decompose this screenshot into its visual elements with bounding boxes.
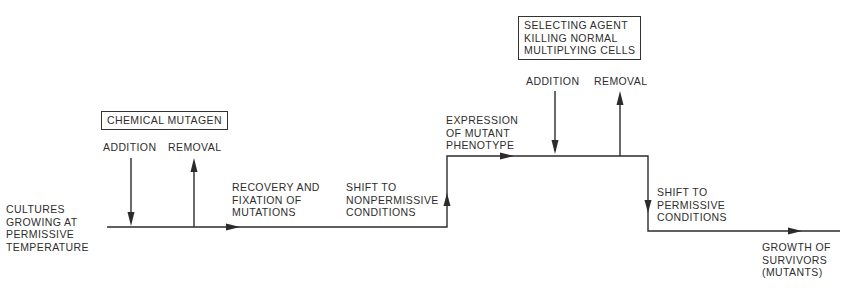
stage-expression-label: EXPRESSION OF MUTANT PHENOTYPE: [446, 114, 518, 152]
stage-shift-nonpermissive-label: SHIFT TO NONPERMISSIVE CONDITIONS: [346, 181, 439, 219]
mutagen-addition-label: ADDITION: [103, 141, 156, 154]
label-line: OF MUTANT: [446, 127, 518, 140]
label-line: CONDITIONS: [657, 211, 727, 224]
label-line: KILLING NORMAL: [524, 32, 635, 45]
label-line: GROWTH OF: [762, 241, 831, 254]
label-line: (MUTANTS): [762, 266, 831, 279]
label-line: EXPRESSION: [446, 114, 518, 127]
chemical-mutagen-box: CHEMICAL MUTAGEN: [101, 111, 228, 130]
selecting-removal-label: REMOVAL: [594, 75, 647, 88]
label-line: MUTATIONS: [232, 206, 320, 219]
label-line: CULTURES: [6, 203, 89, 216]
label-line: SELECTING AGENT: [524, 19, 635, 32]
mutagen-removal-label: REMOVAL: [168, 141, 221, 154]
stage-shift-permissive-label: SHIFT TO PERMISSIVE CONDITIONS: [657, 186, 727, 224]
label-line: FIXATION OF: [232, 194, 320, 207]
stage-start-label: CULTURES GROWING AT PERMISSIVE TEMPERATU…: [6, 203, 89, 253]
stage-recovery-label: RECOVERY AND FIXATION OF MUTATIONS: [232, 181, 320, 219]
label-line: MULTIPLYING CELLS: [524, 44, 635, 57]
label-line: GROWING AT: [6, 216, 89, 229]
label-line: CONDITIONS: [346, 206, 439, 219]
label-line: PERMISSIVE: [6, 228, 89, 241]
label-line: SHIFT TO: [346, 181, 439, 194]
stage-growth-label: GROWTH OF SURVIVORS (MUTANTS): [762, 241, 831, 279]
label-line: SHIFT TO: [657, 186, 727, 199]
label-line: PERMISSIVE: [657, 199, 727, 212]
label-line: RECOVERY AND: [232, 181, 320, 194]
baseline-path: [107, 156, 840, 231]
label-line: PHENOTYPE: [446, 139, 518, 152]
selecting-agent-box: SELECTING AGENT KILLING NORMAL MULTIPLYI…: [518, 16, 641, 60]
selecting-addition-label: ADDITION: [526, 75, 579, 88]
label-line: SURVIVORS: [762, 254, 831, 267]
label-line: NONPERMISSIVE: [346, 194, 439, 207]
label-line: TEMPERATURE: [6, 241, 89, 254]
